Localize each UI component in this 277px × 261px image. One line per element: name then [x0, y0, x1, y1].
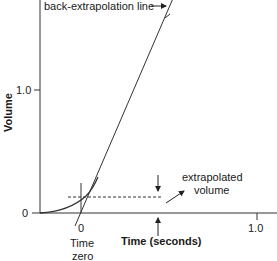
extrapolated-volume-label-2: volume	[194, 184, 229, 196]
x-axis-title: Time (seconds)	[121, 235, 202, 247]
time-zero-label-2: zero	[72, 250, 93, 261]
extrapolated-volume-label-1: extrapolated	[182, 171, 243, 183]
time-zero-label-1: Time	[70, 237, 94, 249]
x-tick-label-1: 1.0	[248, 222, 263, 234]
y-axis-title: Volume	[2, 93, 14, 132]
arrow-pointer-icon	[166, 191, 184, 203]
y-tick-label-0: 0	[22, 207, 28, 219]
back-extrapolation-label: back-extrapolation line	[44, 0, 154, 12]
x-tick-label-0: 0	[78, 222, 84, 234]
y-tick-label-1: 1.0	[16, 84, 31, 96]
chart: 1.0 0 Volume 0 1.0 Time (seconds) Time z…	[0, 0, 277, 261]
volume-curve	[40, 177, 98, 213]
